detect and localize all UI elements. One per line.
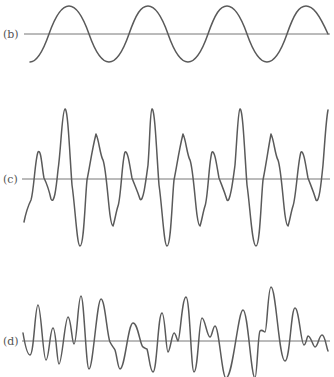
panel-b-label: (b) [3, 28, 19, 41]
panel-c-label: (c) [3, 173, 18, 186]
panel-c-complex-wave [24, 109, 328, 246]
panel-d-noise-wave [23, 287, 328, 377]
panel-c: (c) [3, 109, 330, 246]
waveform-figure: (b) (c) (d) [0, 0, 334, 377]
panel-b: (b) [3, 6, 330, 62]
panel-d: (d) [3, 287, 330, 377]
panel-d-label: (d) [3, 335, 19, 348]
